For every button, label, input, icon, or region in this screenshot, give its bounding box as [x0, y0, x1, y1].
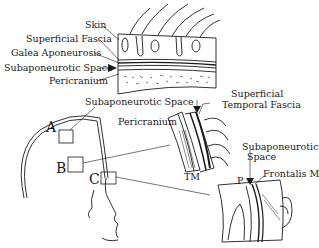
label-superficial-fascia: Superficial Fascia — [26, 34, 112, 44]
label-pericranium-b: Pericranium — [118, 117, 177, 127]
label-subaponeurotic-space-a: Subaponeurotic Space — [4, 63, 113, 73]
label-temporal-fascia: Temporal Fascia — [222, 100, 301, 110]
label-p: P — [237, 176, 243, 186]
frontal-section-c — [218, 180, 292, 242]
label-galea-aponeurosis: Galea Aponeurosis — [11, 48, 101, 58]
marker-b: B — [56, 161, 66, 175]
region-box-a — [59, 130, 73, 143]
temporal-section-b — [168, 112, 230, 172]
label-space-c: Space — [247, 152, 276, 162]
head-profile — [21, 116, 118, 241]
marker-c: C — [89, 172, 100, 186]
marker-a: A — [46, 120, 56, 134]
scalp-section-a — [118, 4, 220, 94]
label-superficial: Superficial — [231, 89, 283, 99]
label-skin: Skin — [85, 20, 106, 30]
label-subaponeurotic-space-b: Subaponeurotic Space — [85, 97, 194, 107]
region-box-c — [101, 172, 116, 184]
label-pericranium-a: Pericranium — [49, 76, 108, 86]
label-tm: TM — [184, 172, 200, 182]
region-box-b — [68, 157, 83, 172]
label-frontalis-m: Frontalis M — [263, 169, 319, 179]
